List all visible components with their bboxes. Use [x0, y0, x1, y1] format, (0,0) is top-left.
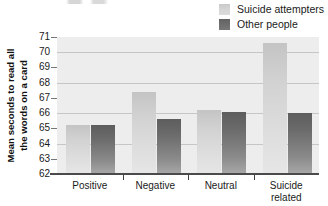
x-axis-label-line: related [254, 192, 320, 204]
y-axis-tick-mark [51, 67, 57, 68]
bar [132, 92, 156, 174]
y-axis-tick-label: 68 [32, 78, 50, 88]
x-axis-label-line: Negative [123, 180, 189, 192]
y-axis-title-line-2: the words on a card [17, 48, 30, 162]
y-axis-tick-label: 66 [32, 108, 50, 118]
legend-label: Suicide attempters [237, 3, 324, 15]
y-axis-tick-mark [51, 128, 57, 129]
bar [197, 110, 221, 174]
x-axis-label-line: Suicide [254, 180, 320, 192]
page-crop-artifact [66, 0, 112, 4]
legend-swatch-light-gray-icon [219, 4, 230, 15]
bar [157, 119, 181, 174]
y-axis-tick-label: 70 [32, 47, 50, 57]
x-axis-label: Positive [57, 180, 123, 192]
y-axis-tick-label: 63 [32, 154, 50, 164]
x-axis-line [50, 173, 319, 175]
y-axis-title: Mean seconds to read all the words on a … [2, 32, 32, 178]
y-axis-title-line-1: Mean seconds to read all [5, 48, 18, 162]
bar [288, 113, 312, 174]
legend-item-suicide-attempters: Suicide attempters [219, 3, 324, 15]
bar [91, 125, 115, 174]
y-axis-tick-mark [51, 37, 57, 38]
bar [222, 112, 246, 174]
legend-swatch-dark-gray-icon [219, 19, 230, 30]
y-axis-tick-label: 69 [32, 62, 50, 72]
y-axis-tick-mark [51, 159, 57, 160]
legend-label: Other people [237, 18, 298, 30]
x-axis-label-line: Positive [57, 180, 123, 192]
bar [263, 43, 287, 174]
y-axis-tick-mark [51, 98, 57, 99]
bar [66, 125, 90, 174]
y-axis-tick-label: 71 [32, 32, 50, 42]
y-axis-tick-label: 64 [32, 139, 50, 149]
chart-plot-area: 71706968676665646362 [57, 37, 319, 174]
chart-legend: Suicide attempters Other people [219, 3, 324, 30]
y-axis-tick-label: 67 [32, 93, 50, 103]
x-axis-label: Suiciderelated [254, 180, 320, 203]
x-axis-label: Negative [123, 180, 189, 192]
y-axis-tick-label: 62 [32, 169, 50, 179]
y-axis-tick-label: 65 [32, 123, 50, 133]
x-axis-label: Neutral [188, 180, 254, 192]
x-axis-label-line: Neutral [188, 180, 254, 192]
legend-item-other-people: Other people [219, 18, 298, 30]
